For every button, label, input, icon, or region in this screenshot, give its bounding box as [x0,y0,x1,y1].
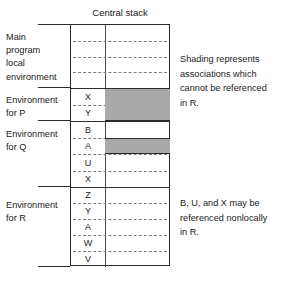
stack-cell-q-u: U [71,158,105,168]
env-label-main-line-1: Main [6,31,68,44]
shaded-block-q [105,138,170,155]
main-row-dash-1 [73,41,167,42]
q-row-dash-3 [73,171,167,172]
env-label-p: Environment for P [6,94,70,120]
note-nonlocal-line-2: referenced nonlocally [180,211,280,226]
stack-cell-q-b: B [71,125,105,135]
env-label-q-line-2: for Q [6,141,70,154]
r-row-dash-2 [73,219,167,220]
stack-cell-p-x: X [71,92,105,102]
stack-section-rule-q-top [71,121,169,122]
env-label-r-line-1: Environment [6,199,70,212]
stack-cell-r-y: Y [71,206,105,216]
q-row-dash-2 [73,154,167,155]
note-nonlocal-line-3: in R. [180,225,280,240]
env-rule-top [38,24,70,25]
env-rule-main-bottom [38,87,70,88]
env-label-r: Environment for R [6,199,70,225]
stack-cell-p-y: Y [71,108,105,118]
stack-cell-r-z: Z [71,190,105,200]
note-shading-line-4: in R. [180,96,280,111]
r-row-dash-1 [73,203,167,204]
env-label-p-line-2: for P [6,107,70,120]
note-nonlocal: B, U, and X may be referenced nonlocally… [180,196,280,240]
r-row-dash-4 [73,251,167,252]
env-label-r-line-2: for R [6,212,70,225]
main-row-dash-2 [73,57,167,58]
env-label-main-line-2: program [6,44,68,57]
env-rule-bottom [38,266,70,267]
stack-cell-q-a: A [71,141,105,151]
note-shading-line-3: cannot be referenced [180,81,280,96]
env-rule-q-bottom [38,186,70,187]
stack-cell-q-x: X [71,174,105,184]
stack-cell-r-a: A [71,222,105,232]
central-stack-box: X Y B A U X Z Y A W V [70,24,170,266]
note-nonlocal-line-1: B, U, and X may be [180,196,280,211]
env-label-p-line-1: Environment [6,94,70,107]
env-label-main-line-3: local [6,57,68,70]
note-shading: Shading represents associations which ca… [180,52,280,110]
stack-cell-r-v: V [71,254,105,264]
note-shading-line-1: Shading represents [180,52,280,67]
stack-section-rule-r-top [71,187,169,188]
r-row-dash-3 [73,235,167,236]
stack-cell-r-w: W [71,238,105,248]
env-label-main: Main program local environment [6,31,68,84]
shaded-block-p [105,88,170,121]
diagram-canvas: Central stack Main program local environ… [0,0,282,282]
central-stack-title: Central stack [70,7,170,19]
env-label-q: Environment for Q [6,128,70,154]
env-label-q-line-1: Environment [6,128,70,141]
main-row-dash-3 [73,72,167,73]
note-shading-line-2: associations which [180,67,280,82]
env-label-main-line-4: environment [6,71,68,84]
